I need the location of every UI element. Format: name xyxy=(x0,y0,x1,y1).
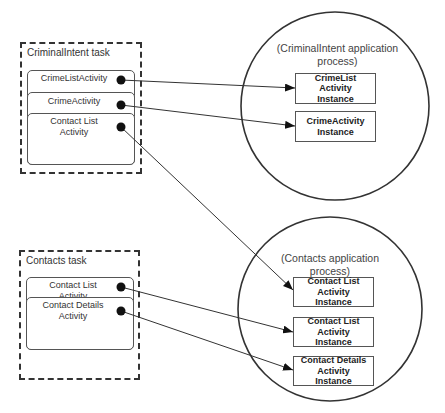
arrow-crimelist xyxy=(121,80,295,88)
dot-icon xyxy=(117,123,126,132)
arrow-contact-details xyxy=(121,311,293,370)
arrow-crime xyxy=(121,105,295,126)
dot-icon xyxy=(117,101,126,110)
dot-icon xyxy=(117,307,126,316)
connections-layer xyxy=(0,0,445,413)
arrow-contact-list-contacts xyxy=(121,287,293,332)
dot-icon xyxy=(117,76,126,85)
dot-icon xyxy=(117,283,126,292)
arrow-contact-list-criminal xyxy=(121,127,293,290)
